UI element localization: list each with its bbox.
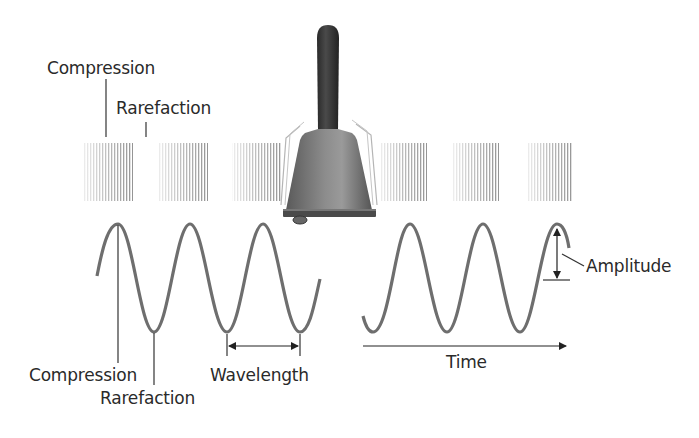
compression-block — [527, 143, 573, 201]
top-compression-label: Compression — [47, 58, 155, 78]
bell-body — [286, 129, 372, 210]
compression-block — [380, 143, 427, 201]
compression-label: Compression — [29, 365, 137, 385]
compression-block — [453, 143, 499, 201]
right-sound-wave — [363, 224, 569, 332]
bell-clapper — [293, 216, 307, 224]
wavelength-label: Wavelength — [210, 365, 309, 385]
left-sound-wave — [97, 224, 320, 332]
amplitude-label: Amplitude — [586, 256, 671, 276]
bell-icon — [281, 25, 377, 224]
sound-wave-diagram: Compression Rarefaction Compression Rare… — [0, 0, 699, 438]
rarefaction-label: Rarefaction — [100, 388, 195, 408]
compression-block — [83, 143, 133, 201]
time-label: Time — [445, 352, 487, 372]
compression-block — [232, 143, 282, 201]
bell-handle — [317, 25, 339, 130]
amplitude-pointer — [562, 254, 584, 266]
top-rarefaction-label: Rarefaction — [116, 98, 211, 118]
compression-block — [158, 143, 208, 201]
